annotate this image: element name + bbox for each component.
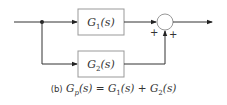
sum-sign-bottom: + — [169, 29, 177, 40]
figure-caption: (b) Gp(s) = G1(s) + G2(s) — [0, 82, 227, 97]
g2-input-line — [42, 22, 77, 64]
caption-equation: Gp(s) = G1(s) + G2(s) — [66, 82, 176, 94]
block-g2: G2(s) — [78, 51, 124, 77]
caption-tag: (b) — [51, 84, 63, 94]
block-g2-label: G2(s) — [87, 58, 115, 73]
block-g1-label: G1(s) — [87, 16, 115, 31]
sum-sign-left: + — [150, 27, 158, 38]
summing-junction — [157, 14, 173, 30]
g2-output-line — [124, 31, 165, 64]
block-g1: G1(s) — [78, 9, 124, 35]
